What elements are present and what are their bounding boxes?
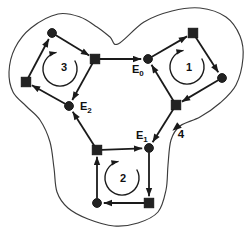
node-label-E1: E1 [136, 129, 148, 144]
node-e1-circle [145, 144, 154, 153]
node-label-E0: E0 [132, 63, 144, 78]
node-c1r-circle [218, 74, 227, 83]
edge-s2tl-to-e2 [73, 112, 95, 147]
edge-c3t-to-s3r [56, 35, 89, 55]
diagram-canvas: 4123E2E0E1 [0, 0, 247, 235]
node-s2br-square [144, 198, 153, 207]
cycle-label-1: 1 [186, 61, 192, 73]
edge-s2tl-to-e1 [102, 148, 143, 150]
node-s2tl-square [92, 145, 101, 154]
node-label-E2: E2 [80, 100, 92, 115]
node-e2-circle [65, 102, 74, 111]
edge-s3r-to-e2 [72, 63, 93, 100]
node-c3t-circle [48, 29, 57, 38]
node-s1b-square [171, 100, 180, 109]
node-s3r-square [90, 54, 99, 63]
node-c2bl-circle [93, 199, 102, 208]
edge-e2-to-s3l [32, 85, 65, 104]
outer-boundary-curve [9, 8, 243, 226]
graph-figure: 4123E2E0E1 [0, 0, 247, 235]
edge-s3l-to-c3t [28, 39, 49, 78]
node-s3l-square [21, 77, 30, 86]
boundary-label-4: 4 [178, 128, 185, 140]
edge-e0-to-s1t [152, 36, 187, 56]
cycle-label-2: 2 [120, 172, 126, 184]
edge-s1t-to-c1r [195, 37, 218, 73]
edge-s1b-to-e1 [153, 109, 174, 142]
cycle-label-3: 3 [61, 61, 67, 73]
node-s1t-square [188, 28, 197, 37]
node-e0-circle [144, 55, 153, 64]
